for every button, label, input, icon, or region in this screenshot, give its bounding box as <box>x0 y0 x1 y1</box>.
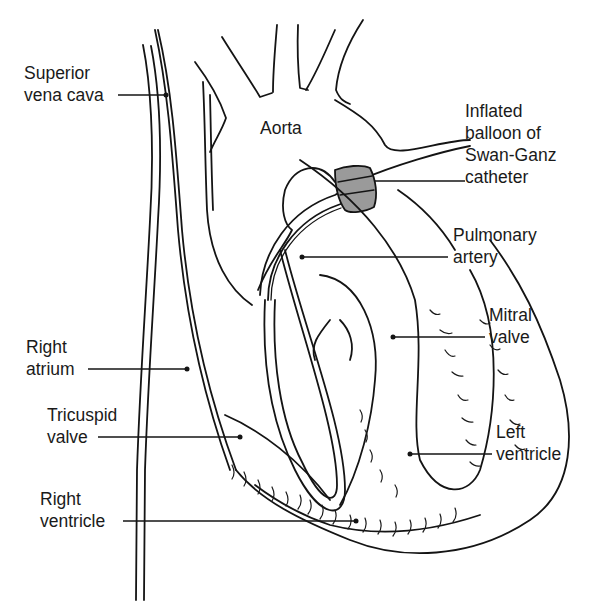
label-line: valve <box>489 326 532 348</box>
label-line: Aorta <box>260 117 302 139</box>
label-line: Tricuspid <box>47 404 117 426</box>
label-right-ventricle: Right ventricle <box>40 488 105 532</box>
superior-vena-cava <box>136 30 236 600</box>
label-mitral-valve: Mitral valve <box>489 304 532 348</box>
label-line: catheter <box>465 166 556 188</box>
label-line: artery <box>453 246 537 268</box>
myocardium-texture <box>232 310 525 536</box>
label-line: Right <box>26 336 75 358</box>
label-left-ventricle: Left ventricle <box>496 421 561 465</box>
label-line: Left <box>496 421 561 443</box>
label-line: ventricle <box>40 510 105 532</box>
label-line: Mitral <box>489 304 532 326</box>
label-line: vena cava <box>24 84 104 106</box>
label-pulmonary-artery: Pulmonary artery <box>453 224 537 268</box>
label-line: Right <box>40 488 105 510</box>
label-line: valve <box>47 426 117 448</box>
label-line: Swan-Ganz <box>465 144 556 166</box>
label-line: Superior <box>24 62 104 84</box>
label-line: ventricle <box>496 443 561 465</box>
label-right-atrium: Right atrium <box>26 336 75 380</box>
label-tricuspid-valve: Tricuspid valve <box>47 404 117 448</box>
label-line: balloon of <box>465 122 556 144</box>
label-superior-vena-cava: Superior vena cava <box>24 62 104 106</box>
label-line: Pulmonary <box>453 224 537 246</box>
label-aorta: Aorta <box>260 117 302 139</box>
label-line: atrium <box>26 358 75 380</box>
label-line: Inflated <box>465 100 556 122</box>
label-inflated-balloon: Inflated balloon of Swan-Ganz catheter <box>465 100 556 188</box>
